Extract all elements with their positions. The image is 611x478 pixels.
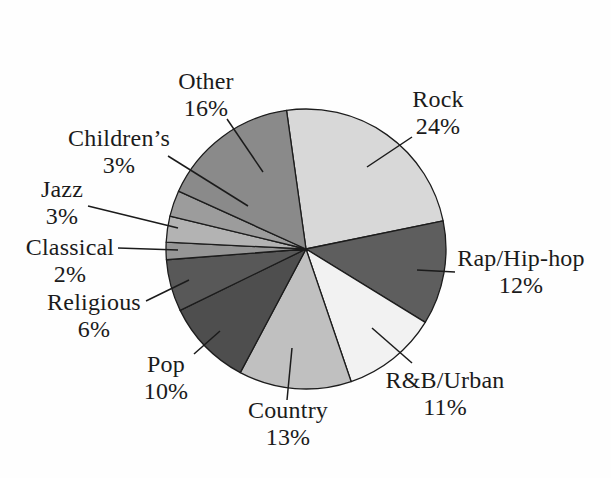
slice-label-childrens: Children’s 3% bbox=[68, 125, 170, 179]
slice-percent: 2% bbox=[26, 261, 114, 288]
slice-name: Jazz bbox=[41, 176, 83, 203]
slice-label-rock: Rock 24% bbox=[412, 86, 463, 140]
slice-percent: 11% bbox=[385, 394, 504, 421]
slice-label-country: Country 13% bbox=[248, 397, 328, 451]
slice-name: R&B/Urban bbox=[385, 367, 504, 394]
slice-percent: 16% bbox=[178, 95, 234, 122]
slice-name: Rap/Hip-hop bbox=[457, 245, 585, 272]
slice-label-rap: Rap/Hip-hop 12% bbox=[457, 245, 585, 299]
slice-percent: 12% bbox=[457, 272, 585, 299]
slice-label-classical: Classical 2% bbox=[26, 234, 114, 288]
leader-line-jazz bbox=[88, 206, 178, 228]
slice-percent: 3% bbox=[41, 203, 83, 230]
slice-name: Pop bbox=[144, 351, 189, 378]
slice-name: Rock bbox=[412, 86, 463, 113]
slice-percent: 10% bbox=[144, 378, 189, 405]
pie-chart-figure: Rock 24% Rap/Hip-hop 12% R&B/Urban 11% C… bbox=[0, 0, 611, 478]
slice-name: Children’s bbox=[68, 125, 170, 152]
slice-label-rnb: R&B/Urban 11% bbox=[385, 367, 504, 421]
pie-slices bbox=[166, 109, 446, 389]
slice-percent: 3% bbox=[68, 152, 170, 179]
slice-percent: 24% bbox=[412, 113, 463, 140]
slice-name: Religious bbox=[47, 289, 141, 316]
slice-percent: 6% bbox=[47, 316, 141, 343]
slice-name: Classical bbox=[26, 234, 114, 261]
slice-label-jazz: Jazz 3% bbox=[41, 176, 83, 230]
slice-label-other: Other 16% bbox=[178, 68, 234, 122]
slice-label-religious: Religious 6% bbox=[47, 289, 141, 343]
slice-name: Other bbox=[178, 68, 234, 95]
slice-percent: 13% bbox=[248, 424, 328, 451]
slice-label-pop: Pop 10% bbox=[144, 351, 189, 405]
slice-name: Country bbox=[248, 397, 328, 424]
